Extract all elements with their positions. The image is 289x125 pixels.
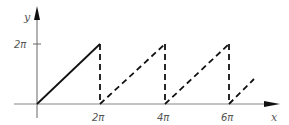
x-axis-label: x: [271, 111, 278, 124]
y-axis-arrow-icon: [34, 6, 40, 20]
x-tick-label-6pi: 6π: [221, 112, 234, 123]
dashed-extension: [100, 44, 254, 104]
x-tick-label-2pi: 2π: [92, 112, 105, 123]
x-tick-label-4pi: 4π: [157, 112, 170, 123]
x-axis-arrow-icon: [264, 101, 280, 107]
solid-segment: [37, 44, 100, 104]
y-axis-label: y: [23, 11, 31, 24]
sawtooth-chart: y x 2π 2π 4π 6π: [0, 0, 289, 125]
y-tick-label: 2π: [14, 39, 27, 50]
